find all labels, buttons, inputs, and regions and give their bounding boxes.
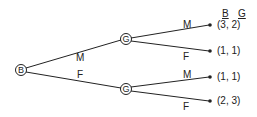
header-g: G: [238, 9, 246, 19]
edge-label-bottom-2: F: [183, 102, 189, 112]
node-bottom: G: [120, 85, 132, 94]
edge-label-top-1: M: [183, 20, 191, 30]
node-top: G: [120, 35, 132, 44]
game-tree-diagram: B G G M F M F M F B G (3, 2) (1, 1) (1, …: [0, 0, 257, 117]
payoff-1: (3, 2): [217, 20, 240, 30]
header-b: B: [222, 9, 229, 19]
payoff-4: (2, 3): [217, 96, 240, 106]
edge-label-top-2: F: [183, 52, 189, 62]
node-root: B: [15, 66, 27, 75]
edge-label-bottom-1: M: [183, 70, 191, 80]
edge-label-root-top: M: [76, 53, 84, 63]
payoff-2: (1, 1): [217, 46, 240, 56]
payoff-3: (1, 1): [217, 72, 240, 82]
edge-label-root-bottom: F: [77, 70, 83, 80]
